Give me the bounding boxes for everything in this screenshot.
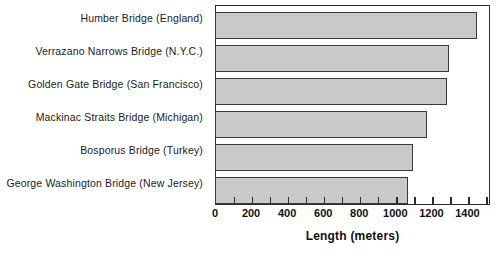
x-axis-tick-label: 1200: [419, 207, 443, 219]
plot-area: [215, 5, 490, 205]
bar: [215, 144, 413, 171]
x-axis-tick-label: 200: [242, 207, 260, 219]
x-axis-minor-tick: [342, 197, 343, 204]
x-axis-tick-label: 1400: [455, 207, 479, 219]
category-labels-axis: Humber Bridge (England) Verrazano Narrow…: [0, 5, 209, 205]
x-axis-title: Length (meters): [215, 229, 490, 243]
x-axis-minor-tick: [270, 197, 271, 204]
category-label: Mackinac Straits Bridge (Michigan): [36, 104, 203, 131]
x-axis-major-tick: [360, 197, 361, 204]
x-axis-minor-tick: [234, 197, 235, 204]
plot-inner: [216, 6, 489, 204]
x-axis-major-tick: [432, 197, 433, 204]
bar: [215, 12, 477, 39]
x-axis-major-tick: [396, 197, 397, 204]
bar-chart: Humber Bridge (England) Verrazano Narrow…: [0, 0, 503, 258]
x-axis-tick-label: 0: [212, 207, 218, 219]
x-axis-minor-tick: [378, 197, 379, 204]
x-axis-major-tick: [324, 197, 325, 204]
x-axis-major-tick: [468, 197, 469, 204]
category-label: George Washington Bridge (New Jersey): [6, 170, 203, 197]
bar: [215, 111, 427, 138]
category-label: Golden Gate Bridge (San Francisco): [28, 71, 203, 98]
category-label: Verrazano Narrows Bridge (N.Y.C.): [35, 38, 203, 65]
x-axis-major-tick: [252, 197, 253, 204]
x-axis-major-tick: [288, 197, 289, 204]
x-axis-tick-label: 800: [350, 207, 368, 219]
x-axis-tick-labels: 0200400600800100012001400: [215, 207, 490, 223]
x-axis-minor-tick: [450, 197, 451, 204]
x-axis-tick-label: 400: [278, 207, 296, 219]
x-axis-tick-label: 1000: [383, 207, 407, 219]
bar: [215, 78, 447, 105]
category-label: Bosporus Bridge (Turkey): [80, 137, 203, 164]
x-axis-minor-tick: [414, 197, 415, 204]
x-axis-minor-tick: [486, 197, 487, 204]
x-axis-tick-label: 600: [314, 207, 332, 219]
x-axis-minor-tick: [306, 197, 307, 204]
category-label: Humber Bridge (England): [80, 5, 203, 32]
bar: [215, 45, 449, 72]
